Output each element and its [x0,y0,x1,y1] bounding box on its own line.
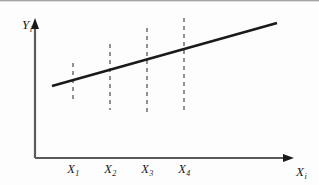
tick-label-x4-symbol: X [178,162,186,176]
tick-label-x3-subscript: 3 [149,169,153,178]
tick-label-x1: X1 [67,163,79,176]
y-axis-arrowhead [31,18,39,29]
tick-label-x2: X2 [104,163,116,176]
tick-label-x3-symbol: X [141,162,149,176]
tick-label-x1-symbol: X [67,162,75,176]
y-axis-label-subscript: i [30,24,32,34]
plot-canvas [0,0,319,185]
tick-label-x2-symbol: X [104,162,112,176]
x-axis-label-subscript: i [304,171,306,181]
tick-label-x3: X3 [141,163,153,176]
tick-label-x1-subscript: 1 [75,169,79,178]
population-regression-line [52,23,277,86]
y-axis-label: Yi [22,18,32,31]
tick-label-x4-subscript: 4 [186,169,190,178]
tick-label-x2-subscript: 2 [112,169,116,178]
y-axis-label-symbol: Y [22,17,29,32]
x-axis-label-symbol: X [296,164,304,179]
x-axis-arrowhead [283,154,294,162]
tick-label-x4: X4 [178,163,190,176]
regression-diagram-figure: Yi Xi X1 X2 X3 X4 [0,0,319,185]
x-axis-label: Xi [296,165,306,178]
